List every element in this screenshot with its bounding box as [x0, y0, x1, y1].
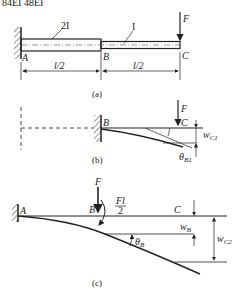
force-label-b: F — [180, 103, 188, 114]
figure-b: F B C wC1 θB1 (b) — [21, 100, 218, 165]
moment-denominator: 2 — [118, 205, 123, 216]
deflection-label-wb: wB — [180, 221, 192, 234]
caption-a: (a) — [92, 89, 102, 99]
fixed-support-hatch — [14, 27, 21, 59]
fixed-support-hatch-b — [94, 115, 101, 142]
angle-mark-b — [168, 128, 170, 136]
fixed-support-hatch-c — [12, 204, 18, 222]
force-label-c: F — [94, 176, 102, 187]
label-i: I — [132, 21, 135, 32]
caption-c: (c) — [92, 278, 102, 288]
force-label: F — [182, 13, 190, 24]
deflected-beam-c — [18, 216, 200, 274]
deflected-beam-b — [101, 129, 183, 147]
point-c-label-c: C — [174, 204, 181, 215]
point-a-label: A — [21, 52, 29, 63]
beam-deflection-diagram: 84EI 48EI 2I I F A B C l/2 l/2 (a) — [0, 0, 240, 304]
point-a-label-c: A — [19, 205, 27, 216]
point-b-label: B — [103, 51, 109, 62]
deflection-label-wc1: wC1 — [203, 129, 218, 142]
point-c-label-b: C — [181, 117, 188, 128]
figure-c: F Fl 2 A B C wB wC2 θB (c) — [12, 176, 232, 288]
dim-right-label: l/2 — [133, 60, 144, 71]
moment-arrow-c — [99, 200, 105, 225]
rotation-label-thetab1: θB1 — [179, 151, 192, 164]
deflection-label-wc2: wC2 — [217, 233, 232, 246]
point-b-label-c: B — [89, 204, 95, 215]
caption-b: (b) — [92, 155, 103, 165]
label-2i: 2I — [61, 20, 69, 31]
point-c-label: C — [182, 50, 189, 61]
top-formula-fragment: 84EI 48EI — [2, 0, 43, 8]
figure-a: 2I I F A B C l/2 l/2 (a) — [14, 12, 190, 99]
point-b-label-b: B — [103, 117, 109, 128]
dim-left-label: l/2 — [54, 60, 65, 71]
